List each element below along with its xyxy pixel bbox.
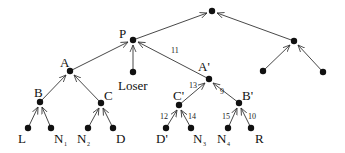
edge-B-A	[40, 75, 66, 102]
node-Loser	[130, 69, 136, 75]
label-Aprime: A'	[198, 59, 210, 74]
weight-11: 11	[171, 46, 179, 55]
svg-text:3: 3	[203, 141, 206, 147]
edge-R2R-R2	[298, 45, 323, 72]
label-A: A	[60, 55, 70, 70]
edge-N2-C	[88, 108, 99, 128]
node-P	[130, 37, 136, 43]
label-Dprime: D'	[156, 131, 168, 146]
node-root	[209, 8, 215, 14]
weight-14: 14	[188, 112, 196, 121]
svg-text:N: N	[217, 131, 227, 146]
edge-D-C	[103, 108, 113, 128]
svg-text:N: N	[54, 131, 64, 146]
tree-diagram: P A Loser A' B C C' B' L N 1 N 2 D D' N …	[0, 0, 345, 153]
edge-Bprime-Aprime	[213, 83, 239, 103]
svg-text:1: 1	[64, 141, 67, 147]
label-N1: N 1	[54, 131, 67, 147]
label-P: P	[119, 26, 126, 41]
node-R	[248, 125, 254, 131]
edge-L-B	[28, 107, 38, 128]
edge-A-P	[70, 42, 128, 71]
edge-R2-root	[217, 13, 294, 41]
label-N2: N 2	[77, 131, 90, 147]
node-R2	[291, 38, 297, 44]
svg-text:N: N	[77, 131, 87, 146]
svg-text:N: N	[193, 131, 203, 146]
svg-text:4: 4	[227, 141, 230, 147]
label-Bprime: B'	[242, 88, 253, 103]
label-Cprime: C'	[173, 88, 184, 103]
label-R: R	[255, 131, 264, 146]
node-R2R	[320, 69, 326, 75]
label-B: B	[34, 85, 43, 100]
label-N3: N 3	[193, 131, 206, 147]
edge-P-root	[133, 13, 207, 40]
weight-10: 10	[248, 112, 256, 121]
weight-13: 13	[189, 81, 197, 90]
edge-C-A	[74, 75, 101, 103]
weight-9: 9	[220, 87, 224, 96]
label-C: C	[104, 88, 113, 103]
node-R2L	[260, 68, 266, 74]
label-D: D	[116, 131, 125, 146]
node-Aprime	[206, 76, 212, 82]
edge-N1-B	[42, 107, 51, 128]
label-L: L	[18, 131, 26, 146]
weight-15: 15	[222, 112, 230, 121]
edge-R2L-R2	[263, 45, 290, 71]
weight-12: 12	[160, 112, 168, 121]
svg-text:2: 2	[87, 141, 90, 147]
label-N4: N 4	[217, 131, 230, 147]
label-Loser: Loser	[118, 78, 148, 93]
